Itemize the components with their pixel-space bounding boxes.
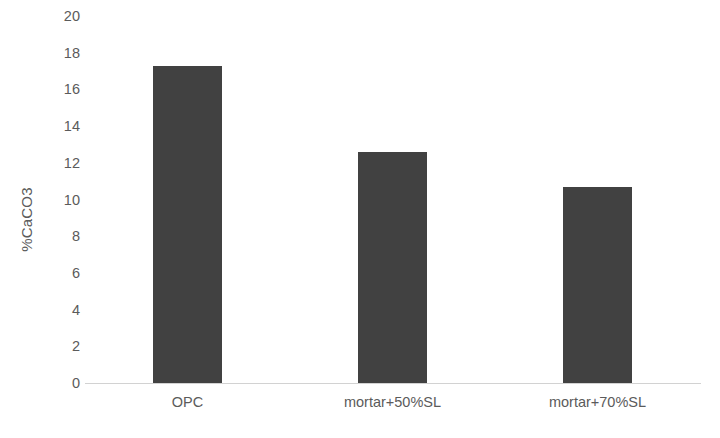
y-axis-tick-label: 16 xyxy=(46,81,80,97)
y-axis-tick-label: 18 xyxy=(46,45,80,61)
y-axis-tick-label: 4 xyxy=(46,302,80,318)
y-axis-tick-label: 8 xyxy=(46,228,80,244)
x-axis-line xyxy=(85,383,701,384)
bar-chart: %CaCO3 20181614121086420 OPCmortar+50%SL… xyxy=(0,0,720,438)
y-axis-tick-label: 10 xyxy=(46,192,80,208)
y-axis-tick-label: 12 xyxy=(46,155,80,171)
y-axis-tick-labels: 20181614121086420 xyxy=(46,0,80,438)
bar xyxy=(153,66,222,383)
y-axis-tick-label: 0 xyxy=(46,375,80,391)
y-axis-tick-label: 6 xyxy=(46,265,80,281)
bar xyxy=(563,187,632,383)
y-axis-title: %CaCO3 xyxy=(0,0,52,438)
x-axis-tick-label: mortar+70%SL xyxy=(549,394,646,410)
y-axis-tick-label: 20 xyxy=(46,8,80,24)
x-axis-tick-label: mortar+50%SL xyxy=(344,394,441,410)
bar xyxy=(358,152,427,383)
y-axis-title-label: %CaCO3 xyxy=(18,187,35,252)
y-axis-tick-label: 2 xyxy=(46,338,80,354)
x-axis-tick-labels: OPCmortar+50%SLmortar+70%SL xyxy=(85,394,700,424)
y-axis-tick-label: 14 xyxy=(46,118,80,134)
plot-area xyxy=(85,16,700,383)
x-axis-tick-label: OPC xyxy=(172,394,203,410)
